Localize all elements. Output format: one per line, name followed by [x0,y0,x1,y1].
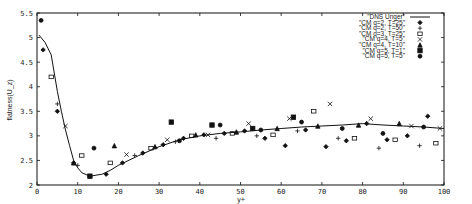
x-tick-label: 20 [114,188,122,196]
series-2 [55,102,422,168]
flatness-chart: 010203040506070809010022.533.544.555.5 "… [0,0,472,204]
x-tick-label: 10 [73,188,81,196]
x-tick-label: 80 [358,188,366,196]
x-tick-label: 40 [196,188,204,196]
series-6 [88,115,296,178]
y-tick-label: 5.5 [20,10,33,18]
y-tick-label: 5 [29,34,33,42]
y-tick-label: 2 [29,182,33,190]
x-tick-label: 100 [438,188,451,196]
x-tick-label: 90 [399,188,407,196]
x-tick-label: 50 [236,188,244,196]
legend: "DNS Unger""CM q=2, T=25""CM q=2, T=50""… [359,13,430,60]
y-tick-label: 3.5 [20,108,33,116]
x-tick-label: 0 [35,188,39,196]
series-3 [49,75,438,165]
y-tick-label: 4 [29,83,33,91]
x-tick-label: 70 [318,188,326,196]
series-1 [41,48,430,179]
y-axis-label: flatness(U_z) [6,79,14,120]
y-tick-label: 4.5 [20,59,33,67]
legend-entry: "CM q=5, T=5" [363,52,406,60]
series-5 [71,121,401,165]
x-tick-label: 60 [277,188,285,196]
y-tick-label: 3 [29,132,33,140]
x-axis-label: y+ [237,196,245,204]
x-tick-label: 30 [155,188,163,196]
y-tick-label: 2.5 [20,157,33,165]
